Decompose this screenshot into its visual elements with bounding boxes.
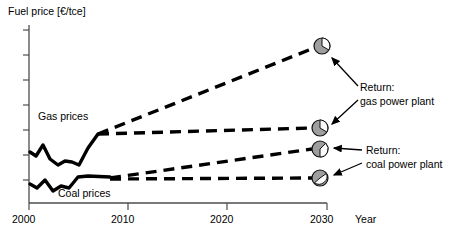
series-coal-projection-high	[110, 149, 312, 178]
arrow-return-coal-lower	[334, 163, 362, 175]
return-gas-line2: gas power plant	[360, 96, 434, 107]
x-axis-title: Year	[355, 214, 376, 225]
xtick-label-2030: 2030	[310, 214, 333, 225]
xtick-label-2000: 2000	[12, 214, 35, 225]
y-axis	[23, 25, 29, 203]
pie-marker-coal-low	[312, 170, 328, 186]
chart-figure: Fuel price [€/tce] Gas prices Coal price…	[0, 0, 454, 241]
gas-prices-label: Gas prices	[38, 111, 88, 122]
x-axis	[29, 203, 327, 210]
xtick-label-2010: 2010	[111, 214, 134, 225]
pie-marker-gas-high	[314, 38, 330, 54]
arrow-return-gas-lower	[332, 100, 358, 124]
return-coal-line1: Return:	[366, 145, 400, 156]
return-coal-line2: coal power plant	[366, 159, 442, 170]
y-axis-title: Fuel price [€/tce]	[8, 6, 86, 17]
arrow-return-coal-upper	[334, 148, 362, 150]
series-coal-projection-low	[110, 178, 312, 179]
xtick-label-2020: 2020	[210, 214, 233, 225]
coal-prices-label: Coal prices	[58, 188, 111, 199]
pie-marker-gas-low	[312, 120, 328, 136]
series-gas-projection-low	[98, 128, 312, 134]
series-gas-projection-high	[98, 48, 314, 134]
series-gas-prices-historical	[30, 134, 98, 165]
return-gas-line1: Return:	[360, 82, 394, 93]
arrow-return-gas-upper	[332, 58, 358, 86]
pie-marker-coal-high	[312, 141, 328, 157]
